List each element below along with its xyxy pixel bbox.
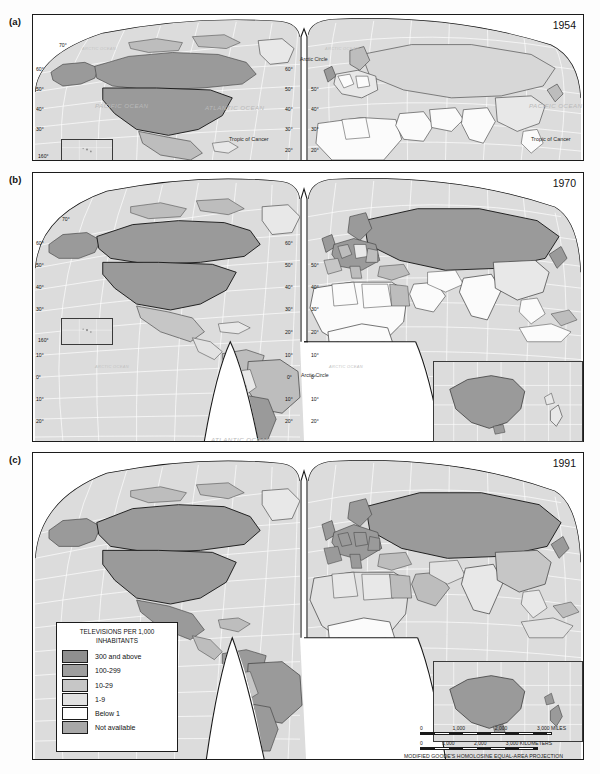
scale-tick: 1,000 (453, 726, 466, 731)
scale-tick: 0 (420, 741, 423, 746)
legend-item: 100-299 (62, 664, 172, 678)
panel-year-1970: 1970 (553, 177, 576, 189)
scale-tick-unit: 3,000 MILES (537, 726, 566, 731)
figure-televisions-map: (a) (b) (c) 1954 (0, 0, 600, 774)
legend-swatch (62, 721, 88, 734)
legend-swatch (62, 707, 88, 720)
australia-inset-1970 (433, 361, 583, 442)
map-panel-1954: 1954 (32, 14, 584, 161)
panel-year-1991: 1991 (553, 457, 576, 469)
legend-label: 10-29 (95, 682, 113, 689)
map-legend: TELEVISIONS PER 1,000 INHABITANTS 300 an… (56, 622, 178, 752)
projection-note: MODIFIED GOODE'S HOMOLOSINE EQUAL-AREA P… (404, 753, 563, 759)
legend-item: Not available (62, 721, 172, 735)
legend-swatch (62, 650, 88, 663)
panel-label-b: (b) (9, 174, 22, 185)
lat-label: 30° (285, 441, 293, 442)
legend-label: 1-9 (95, 696, 105, 703)
legend-rows: 300 and above 100-299 10-29 1-9 Below 1 … (62, 650, 172, 735)
lat-label: 30° (36, 441, 44, 442)
scale-miles-line (420, 732, 552, 735)
hawaii-inset-1954 (61, 139, 113, 161)
scale-tick: 0 (420, 726, 423, 731)
legend-item: 1-9 (62, 692, 172, 706)
scale-tick: 2,000 (474, 741, 487, 746)
legend-label: Not available (95, 724, 135, 731)
legend-item: 300 and above (62, 650, 172, 664)
scale-tick: 2,000 (495, 726, 508, 731)
map-scale-bar: 0 1,000 2,000 3,000 MILES 0 1,000 2,000 … (420, 726, 590, 754)
hawaii-inset-1970 (61, 318, 113, 345)
legend-label: 300 and above (95, 653, 141, 660)
legend-label: Below 1 (95, 710, 120, 717)
panel-year-1954: 1954 (553, 19, 576, 31)
legend-title: TELEVISIONS PER 1,000 INHABITANTS (62, 627, 172, 646)
legend-label: 100-299 (95, 667, 121, 674)
scale-miles: 0 1,000 2,000 3,000 MILES (420, 726, 590, 739)
legend-item: 10-29 (62, 678, 172, 692)
map-canvas-1954 (33, 15, 583, 160)
scale-km-line (420, 747, 538, 750)
panel-label-c: (c) (9, 454, 21, 465)
panel-label-a: (a) (9, 16, 21, 27)
legend-title-line1: TELEVISIONS PER 1,000 (80, 628, 155, 635)
scale-tick-unit: 3,000 KILOMETERS (506, 741, 552, 746)
legend-swatch (62, 664, 88, 677)
lat-label: 30° (311, 441, 319, 442)
legend-swatch (62, 679, 88, 692)
legend-title-line2: INHABITANTS (96, 637, 138, 644)
legend-swatch (62, 693, 88, 706)
scale-tick: 1,000 (442, 741, 455, 746)
legend-item: Below 1 (62, 706, 172, 720)
